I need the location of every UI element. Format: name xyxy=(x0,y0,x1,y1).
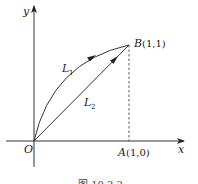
svg-text:(1,0): (1,0) xyxy=(126,147,150,158)
diagram-canvas: y x O B (1,1) A (1,0) L 1 L 2 图 10.2.2 xyxy=(0,0,198,184)
point-b-label: B (1,1) xyxy=(133,37,166,50)
origin-label: O xyxy=(24,143,33,156)
y-axis-label: y xyxy=(22,5,30,18)
curve-l1-label: L 1 xyxy=(61,62,73,77)
segment-l2-label: L 2 xyxy=(83,96,95,111)
svg-text:A: A xyxy=(117,146,126,159)
x-axis-label: x xyxy=(178,143,185,156)
svg-text:(1,1): (1,1) xyxy=(142,38,166,49)
point-a-label: A (1,0) xyxy=(117,146,150,159)
svg-text:2: 2 xyxy=(91,103,95,111)
figure-caption: 图 10.2.2 xyxy=(78,179,123,184)
svg-text:B: B xyxy=(133,37,142,50)
svg-text:1: 1 xyxy=(69,69,73,77)
